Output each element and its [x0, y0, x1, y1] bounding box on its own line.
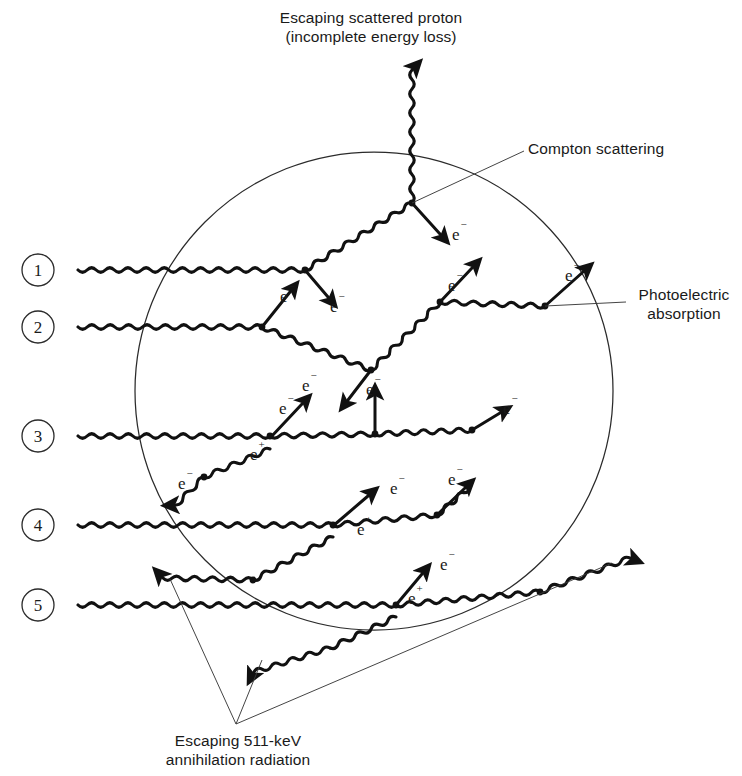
escaping-annihilation-radiation-caption: Escaping 511-keV annihilation radiation — [118, 731, 358, 769]
interaction-vertex — [372, 431, 379, 438]
annihilation-leader-line-right — [236, 563, 612, 724]
electron-label: e− — [330, 290, 345, 316]
event-number-4: 4 — [22, 509, 54, 541]
annihilation-photon-track — [253, 537, 333, 581]
incident-photon-track-4 — [78, 523, 333, 528]
escaping-annihilation-photon-left — [163, 576, 253, 582]
electron-arrow — [437, 488, 465, 515]
escaping-scattered-photon-track — [410, 70, 415, 203]
annihilation-photon-track — [375, 428, 472, 436]
interaction-diagram: 1 2 3 4 5 — [0, 0, 742, 776]
particle-label-layer: e−e−e−e−e−e−e−e−e+e−e−e−e+e−e−e+ — [178, 218, 580, 608]
incident-photon-track-2 — [78, 325, 262, 330]
annihilation-leader-line-left — [170, 579, 236, 724]
photon-track-layer — [78, 70, 630, 672]
escaping-annihilation-photon-down — [254, 647, 330, 672]
interaction-vertex — [330, 522, 337, 529]
electron-label: e− — [440, 548, 455, 574]
escaping-scattered-proton-caption: Escaping scattered proton (incomplete en… — [196, 8, 546, 46]
compton-scattering-caption: Compton scattering — [528, 139, 664, 158]
annihilation-photon-track — [330, 616, 396, 648]
scattered-photon-track — [305, 203, 412, 271]
scattered-photon-track — [371, 302, 440, 370]
electron-label: e− — [452, 218, 467, 244]
event-number-label: 4 — [34, 516, 43, 535]
event-number-2: 2 — [22, 311, 54, 343]
scattered-photon-track — [262, 327, 371, 371]
interaction-vertex — [250, 577, 257, 584]
event-number-label: 2 — [34, 318, 43, 337]
lepton-track-layer — [262, 203, 583, 605]
scattered-photon-track — [440, 300, 545, 308]
interaction-vertex — [434, 512, 441, 519]
interaction-vertex — [469, 427, 476, 434]
positron-label: e+ — [357, 513, 372, 539]
annihilation-photon-track — [204, 448, 270, 477]
event-number-label: 1 — [34, 261, 43, 280]
incident-photon-track-3 — [78, 434, 270, 439]
electron-label: e− — [280, 280, 295, 306]
interaction-vertex — [267, 433, 274, 440]
electron-label: e− — [565, 259, 580, 285]
event-number-5: 5 — [22, 589, 54, 621]
annihilation-photon-track — [270, 432, 375, 438]
electron-label: e− — [390, 472, 405, 498]
annihilation-photon-track — [333, 514, 437, 527]
event-number-1: 1 — [22, 254, 54, 286]
incident-photon-track-1 — [78, 268, 305, 273]
event-number-label: 5 — [34, 596, 43, 615]
event-number-3: 3 — [22, 420, 54, 452]
interaction-vertex — [259, 324, 266, 331]
electron-label: e− — [302, 369, 317, 395]
interaction-vertex — [368, 367, 375, 374]
interaction-vertex — [302, 267, 309, 274]
electron-label: e− — [503, 392, 518, 418]
electron-label: e− — [366, 373, 381, 399]
electron-arrow — [472, 413, 500, 430]
electron-arrow — [412, 203, 440, 234]
electron-arrow — [545, 272, 583, 306]
interaction-vertex — [437, 299, 444, 306]
leader-line-layer — [170, 151, 626, 724]
interaction-vertex — [201, 474, 208, 481]
electron-arrow — [305, 270, 328, 297]
photoelectric-absorption-caption: Photoelectric absorption — [630, 285, 738, 323]
incident-photon-track-5 — [78, 603, 396, 608]
interaction-vertex — [393, 602, 400, 609]
diagram-canvas: 1 2 3 4 5 — [0, 0, 742, 776]
event-number-label: 3 — [34, 427, 43, 446]
electron-label: e− — [448, 463, 463, 489]
photoelectric-leader-line — [545, 302, 626, 306]
electron-label: e− — [178, 467, 193, 493]
